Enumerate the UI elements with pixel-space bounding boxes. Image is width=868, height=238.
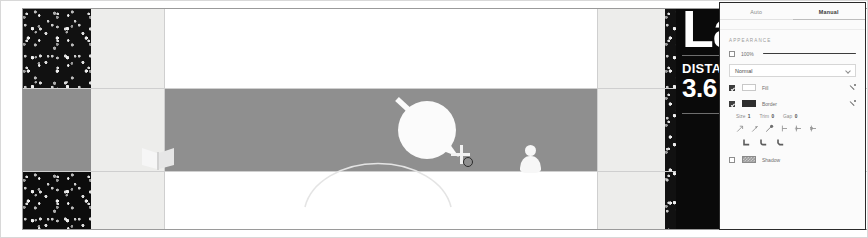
vegetation-bottom-left: [23, 172, 91, 230]
fill-color-swatch[interactable]: [742, 84, 756, 91]
arrow-start-icon[interactable]: [736, 124, 745, 133]
fill-label: Fill: [762, 85, 768, 91]
plaza-upper-left: [165, 9, 285, 88]
shadow-label: Shadow: [762, 157, 780, 163]
stepper-trim-label: Trim: [760, 114, 769, 119]
shadow-checkbox[interactable]: [729, 157, 735, 163]
border-color-swatch[interactable]: [742, 100, 756, 107]
path-strip-right: [597, 9, 665, 230]
stepper-gap-label: Gap: [783, 114, 792, 119]
inspector-divider: [720, 29, 865, 30]
stroke-stepper-row[interactable]: Size 1 Trim 0 Gap 0: [736, 114, 856, 119]
line-cap-square-icon[interactable]: [809, 124, 818, 133]
border-row[interactable]: Border: [729, 98, 856, 109]
crosshair-cursor-icon: [451, 145, 479, 173]
corner-bevel-icon[interactable]: [776, 138, 785, 147]
path-strip-left: [91, 9, 165, 230]
shadow-row[interactable]: Shadow: [729, 154, 856, 165]
tab-active-underline: [793, 19, 866, 20]
stepper-size[interactable]: Size 1: [736, 114, 751, 119]
tab-manual[interactable]: Manual: [793, 7, 866, 15]
stepper-trim[interactable]: Trim 0: [760, 114, 775, 119]
opacity-slider-track: [763, 53, 856, 54]
line-cap-butt-icon[interactable]: [780, 124, 789, 133]
stepper-size-value: 1: [748, 114, 751, 119]
screenshot-root: La DISTA 3.6 m Auto Manual APPEARANCE 10…: [0, 0, 868, 238]
fill-checkbox[interactable]: [729, 85, 735, 91]
line-cap-round-icon[interactable]: [794, 124, 803, 133]
border-checkbox[interactable]: [729, 101, 735, 107]
joint-button-row[interactable]: [742, 138, 856, 147]
stepper-trim-value: 0: [771, 114, 774, 119]
fill-row[interactable]: Fill: [729, 82, 856, 93]
shadow-color-swatch[interactable]: [742, 156, 756, 163]
stepper-gap[interactable]: Gap 0: [783, 114, 797, 119]
border-eyedropper-icon[interactable]: [849, 100, 856, 107]
path-edge-line-right: [597, 9, 598, 230]
stepper-size-label: Size: [736, 114, 745, 119]
tab-auto[interactable]: Auto: [720, 7, 793, 15]
blend-mode-value: Normal: [735, 68, 752, 74]
endpoint-button-row[interactable]: [736, 124, 856, 133]
fill-eyedropper-icon[interactable]: [849, 84, 856, 91]
opacity-slider[interactable]: [763, 50, 856, 57]
corner-miter-icon[interactable]: [742, 138, 751, 147]
border-label: Border: [762, 101, 777, 107]
opacity-label: 100%: [741, 51, 754, 57]
arrow-end-icon[interactable]: [765, 124, 774, 133]
vegetation-top-left: [23, 9, 91, 88]
arrow-mid-icon[interactable]: [751, 124, 760, 133]
chevron-down-icon: [846, 69, 850, 73]
door-opening-icon: [141, 146, 175, 170]
appearance-inspector[interactable]: Auto Manual APPEARANCE 100% Normal Fill: [719, 2, 866, 230]
plaza-lower-left: [165, 172, 285, 230]
section-label-appearance: APPEARANCE: [729, 38, 865, 43]
path-edge-line-left: [164, 9, 165, 230]
stepper-gap-value: 0: [795, 114, 798, 119]
blend-mode-select[interactable]: Normal: [729, 64, 856, 77]
inspector-tabs[interactable]: Auto Manual: [720, 3, 865, 20]
person-marker-icon[interactable]: [517, 145, 543, 177]
corner-round-icon[interactable]: [759, 138, 768, 147]
opacity-row[interactable]: 100%: [729, 48, 856, 59]
opacity-checkbox[interactable]: [729, 51, 735, 57]
